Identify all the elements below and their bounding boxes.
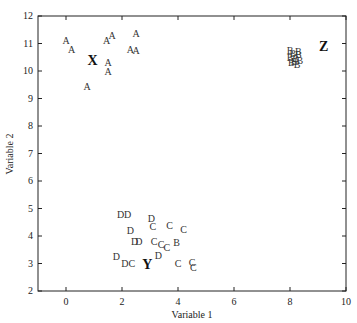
point-marker-c: C bbox=[175, 258, 182, 269]
cluster-label-y: Y bbox=[142, 257, 152, 272]
y-tick-label: 3 bbox=[28, 258, 33, 269]
point-marker-b: B bbox=[291, 56, 298, 67]
point-marker-a: A bbox=[83, 81, 91, 92]
x-tick-label: 2 bbox=[120, 296, 125, 307]
cluster-label-x: X bbox=[88, 53, 98, 68]
point-marker-c: C bbox=[166, 220, 173, 231]
data-points: AAAAAAAAAABBBBBBBBBBBCCCCCCCCCCDDDDDDDDD bbox=[62, 28, 303, 273]
y-tick-label: 5 bbox=[28, 203, 33, 214]
point-marker-d: D bbox=[121, 258, 128, 269]
point-marker-b: B bbox=[173, 237, 180, 248]
point-marker-d: D bbox=[135, 236, 142, 247]
y-axis-title: Variable 2 bbox=[4, 134, 15, 175]
point-marker-d: D bbox=[124, 209, 131, 220]
point-marker-d: D bbox=[148, 213, 155, 224]
point-marker-d: D bbox=[127, 225, 134, 236]
x-tick-label: 10 bbox=[341, 296, 351, 307]
y-tick-label: 10 bbox=[23, 65, 33, 76]
y-tick-label: 4 bbox=[28, 230, 33, 241]
x-tick-label: 6 bbox=[232, 296, 237, 307]
y-tick-label: 11 bbox=[23, 38, 33, 49]
point-marker-d: D bbox=[113, 251, 120, 262]
point-marker-a: A bbox=[132, 28, 140, 39]
point-marker-c: C bbox=[163, 242, 170, 253]
y-tick-label: 6 bbox=[28, 175, 33, 186]
point-marker-a: A bbox=[109, 30, 117, 41]
x-tick-label: 8 bbox=[288, 296, 293, 307]
point-marker-a: A bbox=[132, 45, 140, 56]
point-marker-b: B bbox=[287, 45, 294, 56]
y-tick-label: 9 bbox=[28, 93, 33, 104]
cluster-labels: XYZ bbox=[88, 39, 329, 271]
cluster-label-z: Z bbox=[319, 39, 328, 54]
point-marker-d: D bbox=[155, 250, 162, 261]
point-marker-a: A bbox=[68, 44, 76, 55]
scatter-chart: 0246810 23456789101112 AAAAAAAAAABBBBBBB… bbox=[0, 0, 357, 323]
x-tick-label: 4 bbox=[176, 296, 181, 307]
point-marker-c: C bbox=[128, 258, 135, 269]
x-tick-label: 0 bbox=[64, 296, 69, 307]
point-marker-c: C bbox=[190, 262, 197, 273]
y-tick-label: 7 bbox=[28, 148, 33, 159]
point-marker-c: C bbox=[180, 224, 187, 235]
point-marker-a: A bbox=[104, 66, 112, 77]
y-tick-label: 8 bbox=[28, 120, 33, 131]
y-tick-label: 2 bbox=[28, 285, 33, 296]
point-marker-c: C bbox=[151, 236, 158, 247]
x-axis-title: Variable 1 bbox=[172, 309, 213, 320]
y-tick-label: 12 bbox=[23, 10, 33, 21]
